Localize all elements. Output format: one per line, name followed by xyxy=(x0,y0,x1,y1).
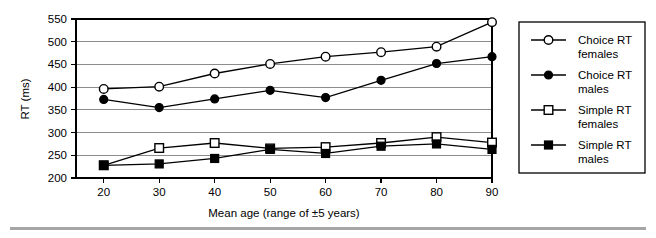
y-tick-label: 300 xyxy=(48,127,67,139)
legend-label-line2: males xyxy=(578,153,609,165)
x-tick-label: 50 xyxy=(264,186,277,198)
series-markers xyxy=(99,18,496,93)
data-point-marker xyxy=(155,160,163,168)
data-point-marker xyxy=(99,85,108,94)
legend-marker-icon xyxy=(544,36,553,45)
data-point-marker xyxy=(377,48,386,57)
data-point-marker xyxy=(377,142,385,150)
legend-label-line2: females xyxy=(578,118,619,130)
legend-marker-icon xyxy=(545,141,553,149)
legend-label-line1: Choice RT xyxy=(578,34,632,46)
y-tick-label: 450 xyxy=(48,58,67,70)
x-tick-label: 60 xyxy=(319,186,332,198)
data-point-marker xyxy=(488,18,497,27)
data-point-marker xyxy=(322,94,330,102)
data-point-marker xyxy=(488,145,496,153)
legend-label-line1: Simple RT xyxy=(578,139,631,151)
x-tick-label: 40 xyxy=(208,186,221,198)
y-tick-label: 400 xyxy=(48,81,67,93)
x-axis-tickmarks xyxy=(104,178,492,183)
data-point-marker xyxy=(100,95,108,103)
y-tick-label: 250 xyxy=(48,149,67,161)
figure-container: 200250300350400450500550 203040506070809… xyxy=(0,0,656,238)
y-tick-label: 550 xyxy=(48,13,67,25)
x-tick-label: 80 xyxy=(430,186,443,198)
data-point-marker xyxy=(210,139,219,148)
line-chart: 200250300350400450500550 203040506070809… xyxy=(0,0,656,238)
data-point-marker xyxy=(433,140,441,148)
legend-label-line2: females xyxy=(578,48,619,60)
data-point-marker xyxy=(322,149,330,157)
y-tick-label: 500 xyxy=(48,36,67,48)
x-tick-label: 30 xyxy=(153,186,166,198)
y-tick-label: 200 xyxy=(48,172,67,184)
footer-divider xyxy=(10,227,646,230)
data-point-marker xyxy=(266,145,274,153)
data-series xyxy=(104,22,492,89)
y-tick-label: 350 xyxy=(48,104,67,116)
data-point-marker xyxy=(155,144,164,153)
legend-label-line1: Simple RT xyxy=(578,104,631,116)
data-point-marker xyxy=(155,82,164,91)
data-point-marker xyxy=(211,154,219,162)
x-axis-title: Mean age (range of ±5 years) xyxy=(208,207,360,219)
data-point-marker xyxy=(377,76,385,84)
series-line xyxy=(104,22,492,89)
y-axis-tick-labels: 200250300350400450500550 xyxy=(48,13,67,184)
x-tick-label: 90 xyxy=(486,186,499,198)
data-point-marker xyxy=(266,86,274,94)
legend-marker-icon xyxy=(544,106,553,115)
data-point-marker xyxy=(488,53,496,61)
data-point-marker xyxy=(210,69,219,78)
data-point-marker xyxy=(211,95,219,103)
data-point-marker xyxy=(432,42,441,51)
data-point-marker xyxy=(100,161,108,169)
data-point-marker xyxy=(433,60,441,68)
y-axis-title: RT (ms) xyxy=(19,78,31,119)
legend-marker-icon xyxy=(545,71,553,79)
data-point-marker xyxy=(321,52,330,61)
y-axis-tickmarks xyxy=(71,19,76,178)
legend-label-line2: males xyxy=(578,83,609,95)
data-point-marker xyxy=(155,104,163,112)
data-point-marker xyxy=(266,60,275,69)
data-series-group xyxy=(99,18,496,170)
x-tick-label: 70 xyxy=(375,186,388,198)
x-axis-tick-labels: 2030405060708090 xyxy=(97,186,498,198)
chart-legend: Choice RTfemalesChoice RTmalesSimple RTf… xyxy=(519,22,645,173)
legend-label-line1: Choice RT xyxy=(578,69,632,81)
x-tick-label: 20 xyxy=(97,186,110,198)
